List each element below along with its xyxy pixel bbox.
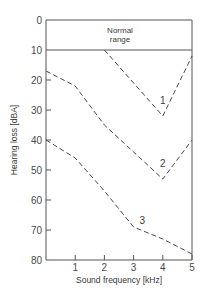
x-axis-ticks: 12345 — [72, 255, 195, 273]
x-axis-label: Sound frequency [kHz] — [76, 275, 162, 285]
x-tick-label: 1 — [72, 262, 78, 273]
y-tick-label: 40 — [31, 135, 43, 146]
normal-range-annotation: Normal range — [107, 26, 133, 44]
plot-frame — [46, 20, 192, 260]
normal-range-label-line2: range — [110, 35, 131, 44]
x-tick-label: 5 — [189, 262, 195, 273]
y-tick-label: 0 — [36, 15, 42, 26]
y-tick-label: 60 — [31, 195, 43, 206]
y-axis-label: Hearing loss [dBA] — [9, 105, 19, 175]
series-line-3 — [46, 140, 192, 254]
x-tick-label: 2 — [102, 262, 108, 273]
y-tick-label: 80 — [31, 255, 43, 266]
x-tick-label: 3 — [131, 262, 137, 273]
x-tick-label: 4 — [160, 262, 166, 273]
y-tick-label: 50 — [31, 165, 43, 176]
series-line-1 — [104, 50, 192, 116]
y-axis-ticks: 01020304050607080 — [31, 15, 51, 266]
y-tick-label: 70 — [31, 225, 43, 236]
series-group: 123 — [46, 50, 192, 254]
series-label-1: 1 — [160, 95, 166, 106]
y-tick-label: 30 — [31, 105, 43, 116]
series-line-2 — [46, 71, 192, 179]
series-label-2: 2 — [160, 158, 166, 169]
y-tick-label: 10 — [31, 45, 43, 56]
y-tick-label: 20 — [31, 75, 43, 86]
hearing-loss-chart: 01020304050607080 12345 Normal range 123… — [0, 0, 204, 303]
series-label-3: 3 — [140, 215, 146, 226]
normal-range-label-line1: Normal — [107, 26, 133, 35]
